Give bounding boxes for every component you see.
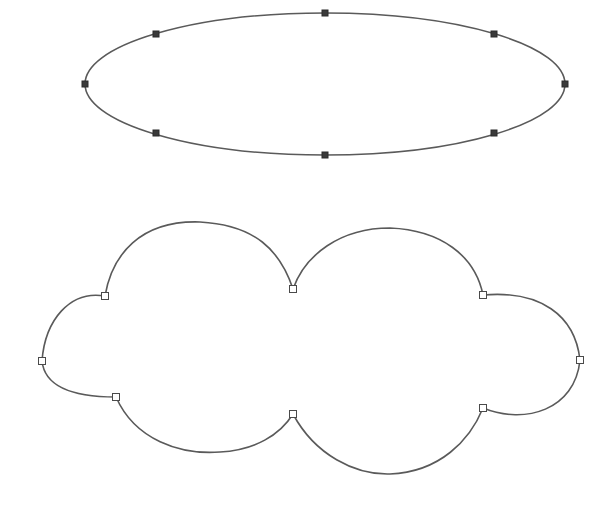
resize-handle[interactable] [322,152,328,158]
cloud-shape[interactable] [39,222,584,474]
resize-handle[interactable] [113,394,120,401]
resize-handle[interactable] [480,292,487,299]
resize-handle[interactable] [491,31,497,37]
resize-handle[interactable] [480,405,487,412]
resize-handle[interactable] [102,293,109,300]
cloud-outline[interactable] [42,222,580,474]
resize-handle[interactable] [577,357,584,364]
ellipse-shape[interactable] [82,10,568,158]
resize-handle[interactable] [322,10,328,16]
resize-handle[interactable] [153,31,159,37]
resize-handle[interactable] [82,81,88,87]
resize-handle[interactable] [153,130,159,136]
resize-handle[interactable] [562,81,568,87]
drawing-canvas[interactable] [0,0,609,507]
resize-handle[interactable] [39,358,46,365]
ellipse-selection-handles[interactable] [82,10,568,158]
resize-handle[interactable] [290,286,297,293]
resize-handle[interactable] [491,130,497,136]
resize-handle[interactable] [290,411,297,418]
cloud-selection-handles[interactable] [39,286,584,418]
